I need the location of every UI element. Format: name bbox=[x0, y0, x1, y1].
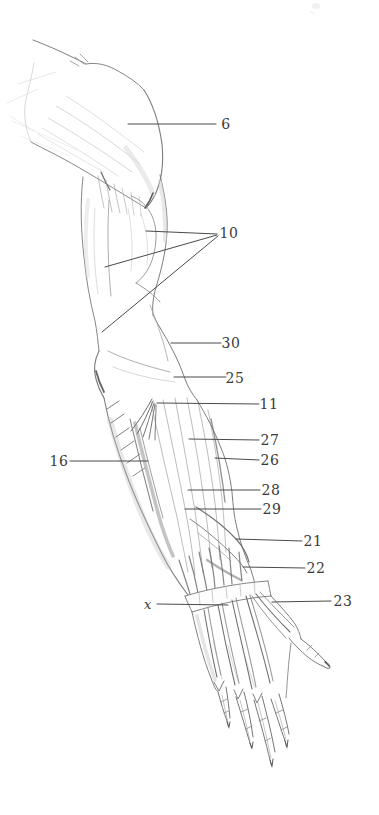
paper-speck bbox=[310, 3, 320, 14]
label-23: 23 bbox=[334, 594, 353, 608]
forearm-region bbox=[104, 398, 256, 595]
leader-line-22 bbox=[243, 567, 305, 568]
label-x: x bbox=[144, 598, 152, 611]
label-22: 22 bbox=[307, 561, 326, 575]
label-11: 11 bbox=[260, 397, 279, 411]
label-21: 21 bbox=[304, 534, 323, 548]
label-16: 16 bbox=[50, 454, 69, 468]
label-30: 30 bbox=[222, 336, 241, 350]
deltoid-region bbox=[7, 40, 163, 216]
label-27: 27 bbox=[261, 433, 280, 447]
label-26: 26 bbox=[261, 453, 280, 467]
leader-line-23 bbox=[272, 601, 331, 602]
label-29: 29 bbox=[263, 502, 282, 516]
label-28: 28 bbox=[262, 483, 281, 497]
label-6: 6 bbox=[221, 117, 230, 131]
anatomy-figure: 6 10 30 25 11 27 26 16 28 29 21 22 x 23 bbox=[0, 0, 379, 815]
leader-line-21 bbox=[236, 539, 302, 541]
leader-line-11 bbox=[157, 403, 259, 404]
label-25: 25 bbox=[226, 371, 245, 385]
arm-illustration bbox=[0, 0, 379, 815]
leader-line-10c bbox=[102, 236, 218, 332]
leader-line-27 bbox=[189, 439, 259, 440]
leader-line-26 bbox=[215, 458, 259, 460]
upper-arm-region bbox=[81, 175, 197, 400]
label-10: 10 bbox=[220, 226, 239, 240]
leader-line-10a bbox=[146, 231, 217, 234]
hand-region bbox=[192, 592, 330, 767]
